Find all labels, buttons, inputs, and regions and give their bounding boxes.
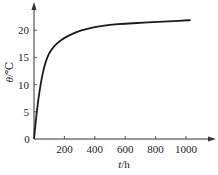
data-line bbox=[34, 20, 191, 139]
x-tick-label: 1000 bbox=[175, 143, 198, 155]
origin-label: 0 bbox=[24, 133, 30, 145]
y-tick-label: 20 bbox=[18, 24, 30, 36]
chart-canvas: 2004006008001000 5101520 0 t/h θ/℃ bbox=[0, 0, 218, 175]
y-tick-label: 10 bbox=[18, 79, 30, 91]
y-axis-arrow-icon bbox=[32, 2, 37, 10]
x-tick-label: 400 bbox=[87, 143, 104, 155]
x-tick-label: 800 bbox=[147, 143, 164, 155]
y-tick-label: 5 bbox=[24, 106, 30, 118]
x-tick-label: 600 bbox=[117, 143, 134, 155]
x-tick-label: 200 bbox=[56, 143, 73, 155]
x-axis-label: t/h bbox=[118, 158, 130, 170]
y-axis-label: θ/℃ bbox=[3, 62, 15, 83]
y-axis-label-unit: /℃ bbox=[3, 62, 15, 77]
y-tick-label: 15 bbox=[18, 51, 30, 63]
x-axis-arrow-icon bbox=[208, 137, 216, 142]
x-axis-label-unit: /h bbox=[121, 158, 130, 170]
